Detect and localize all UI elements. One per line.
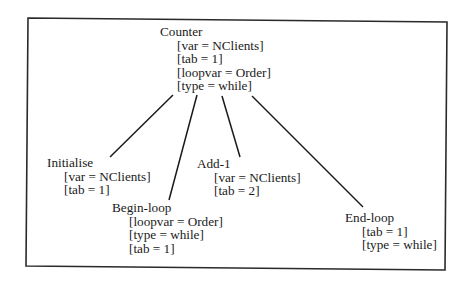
node-title: Initialise [47,156,151,170]
node-title: End-loop [345,211,437,225]
node-begin-loop: Begin-loop [loopvar = Order] [type = whi… [112,201,223,255]
node-attr: [tab = 2] [197,184,301,198]
node-attr: [type = while] [345,238,437,252]
node-attr: [tab = 1] [345,225,437,239]
node-title: Add-1 [197,157,301,171]
node-add-1: Add-1 [var = NClients] [tab = 2] [197,157,301,198]
edge-counter-initialise [110,95,173,157]
node-title: Begin-loop [112,201,223,215]
node-end-loop: End-loop [tab = 1] [type = while] [345,211,437,252]
edge-counter-begin-loop [169,95,197,200]
node-initialise: Initialise [var = NClients] [tab = 1] [47,156,151,197]
tree-diagram: Counter [var = NClients] [tab = 1] [loop… [0,0,472,286]
node-attr: [tab = 1] [112,242,223,256]
node-counter: Counter [var = NClients] [tab = 1] [loop… [160,25,271,93]
node-attr: [var = NClients] [197,171,301,185]
node-attr: [type = while] [160,79,271,93]
node-attr: [loopvar = Order] [160,66,271,80]
node-title: Counter [160,25,271,39]
node-attr: [var = NClients] [47,170,151,184]
node-attr: [tab = 1] [47,183,151,197]
node-attr: [tab = 1] [160,52,271,66]
node-attr: [loopvar = Order] [112,215,223,229]
edge-counter-add-1 [222,96,240,157]
node-attr: [type = while] [112,228,223,242]
node-attr: [var = NClients] [160,39,271,53]
